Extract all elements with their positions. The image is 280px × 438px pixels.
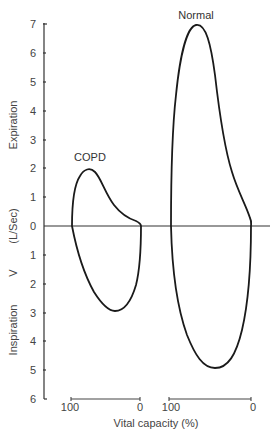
flow-volume-chart: 7 6 5 4 3 2 1 0 1 2 3 4 5 6 Expiration (…: [0, 0, 280, 438]
normal-scale-start: 100: [162, 401, 180, 413]
copd-loop: [72, 169, 141, 311]
normal-scale-end: 0: [250, 401, 256, 413]
x-axis-label: Vital capacity (%): [114, 417, 199, 429]
y-tick-label: 2: [30, 278, 36, 290]
copd-label: COPD: [74, 151, 106, 163]
y-tick-label: 1: [30, 249, 36, 261]
copd-scale-start: 100: [61, 401, 79, 413]
y-tick-label: 2: [30, 162, 36, 174]
y-tick-label: 7: [30, 18, 36, 30]
y-tick-label: 4: [30, 105, 36, 117]
y-label-flow-symbol: V: [7, 269, 19, 277]
y-tick-label: 5: [30, 364, 36, 376]
y-tick-label: 5: [30, 76, 36, 88]
y-tick-label: 0: [30, 220, 36, 232]
y-label-inspiration: Inspiration: [7, 305, 19, 356]
normal-vital-capacity-scale: [169, 397, 251, 401]
y-tick-label: 3: [30, 307, 36, 319]
normal-loop: [171, 25, 251, 368]
y-label-expiration: Expiration: [7, 101, 19, 150]
y-label-units: (L/Sec): [7, 208, 19, 243]
y-tick-label: 6: [30, 47, 36, 59]
y-tick-label: 4: [30, 335, 36, 347]
y-tick-label: 3: [30, 134, 36, 146]
normal-label: Normal: [178, 9, 213, 21]
copd-vital-capacity-scale: [71, 397, 140, 401]
y-tick-label: 6: [30, 393, 36, 405]
copd-scale-end: 0: [137, 401, 143, 413]
y-tick-label: 1: [30, 191, 36, 203]
